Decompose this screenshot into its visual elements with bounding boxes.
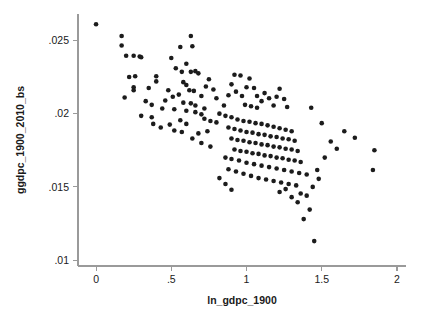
data-point <box>131 88 136 93</box>
data-point <box>124 53 129 58</box>
data-point <box>267 165 272 170</box>
data-point <box>160 106 165 111</box>
data-point <box>255 105 260 110</box>
data-point <box>286 182 291 187</box>
data-point <box>214 120 219 125</box>
data-point <box>250 151 255 156</box>
x-tick-label: 2 <box>394 273 400 285</box>
data-point <box>202 106 207 111</box>
data-point <box>247 119 252 124</box>
data-point <box>277 145 282 150</box>
data-point <box>286 157 291 162</box>
data-point <box>205 129 210 134</box>
data-point <box>232 147 237 152</box>
y-axis-title: ggdpc_1900_2010_bs <box>14 86 26 194</box>
data-point <box>214 96 219 101</box>
data-point <box>149 115 154 120</box>
data-point <box>304 172 309 177</box>
data-point <box>167 122 172 127</box>
data-point <box>265 123 270 128</box>
data-point <box>199 112 204 117</box>
data-point <box>372 148 377 153</box>
data-point <box>226 93 231 98</box>
data-point <box>244 130 249 135</box>
data-point <box>264 177 269 182</box>
data-point <box>229 82 234 87</box>
data-point <box>277 190 282 195</box>
data-point <box>252 86 257 91</box>
data-point <box>282 168 287 173</box>
data-point <box>252 162 257 167</box>
data-point <box>247 76 252 81</box>
data-point <box>158 125 163 130</box>
y-tick-label: .015 <box>49 181 70 193</box>
data-point <box>133 74 138 79</box>
data-point <box>328 139 333 144</box>
data-point <box>289 147 294 152</box>
data-point <box>292 138 297 143</box>
data-point <box>208 119 213 124</box>
data-point <box>259 163 264 168</box>
data-point <box>184 83 189 88</box>
data-point <box>204 84 209 89</box>
data-point <box>262 91 267 96</box>
data-point <box>181 100 186 105</box>
data-point <box>253 121 258 126</box>
data-point <box>232 73 237 78</box>
y-axis-ticks: .01.015.02.025 <box>49 34 78 266</box>
data-point <box>229 115 234 120</box>
data-point <box>119 43 124 48</box>
data-point <box>238 149 243 154</box>
data-point <box>265 143 270 148</box>
data-point <box>307 207 312 212</box>
data-point <box>259 142 264 147</box>
data-point <box>199 141 204 146</box>
data-point <box>178 118 183 123</box>
data-point <box>315 168 320 173</box>
y-tick-label: .02 <box>54 107 69 119</box>
data-point <box>192 89 197 94</box>
data-point <box>292 158 297 163</box>
data-point <box>295 149 300 154</box>
x-tick-label: .5 <box>167 273 176 285</box>
data-point <box>240 94 245 99</box>
x-tick-label: 1 <box>244 273 250 285</box>
data-point <box>184 62 189 67</box>
data-point <box>294 183 299 188</box>
data-point <box>353 136 358 141</box>
data-point <box>127 75 132 80</box>
data-point <box>304 193 309 198</box>
data-point <box>298 160 303 165</box>
data-point <box>298 191 303 196</box>
data-point <box>283 127 288 132</box>
data-point <box>238 128 243 133</box>
data-point <box>154 79 159 84</box>
data-point <box>139 114 144 119</box>
scatter-plot-figure: .01.015.02.025 0.511.52 ln_gdpc_1900 ggd… <box>0 0 439 320</box>
data-point <box>274 135 279 140</box>
data-point <box>295 200 300 205</box>
data-point <box>297 171 302 176</box>
x-axis-ticks: 0.511.52 <box>93 266 400 285</box>
data-point <box>319 121 324 126</box>
data-point <box>271 103 276 108</box>
data-point <box>371 168 376 173</box>
data-point <box>223 155 228 160</box>
data-point <box>342 129 347 134</box>
data-point <box>289 195 294 200</box>
data-point <box>310 185 315 190</box>
data-point <box>250 130 255 135</box>
data-point <box>271 125 276 130</box>
data-point <box>196 71 201 76</box>
data-point <box>322 155 327 160</box>
data-point <box>172 128 177 133</box>
data-point <box>131 53 136 58</box>
data-point <box>280 156 285 161</box>
data-point <box>217 111 222 116</box>
data-point <box>277 126 282 131</box>
data-point <box>283 187 288 192</box>
data-point <box>184 122 189 127</box>
data-point <box>166 88 171 93</box>
data-point <box>259 122 264 127</box>
data-point <box>256 132 261 137</box>
